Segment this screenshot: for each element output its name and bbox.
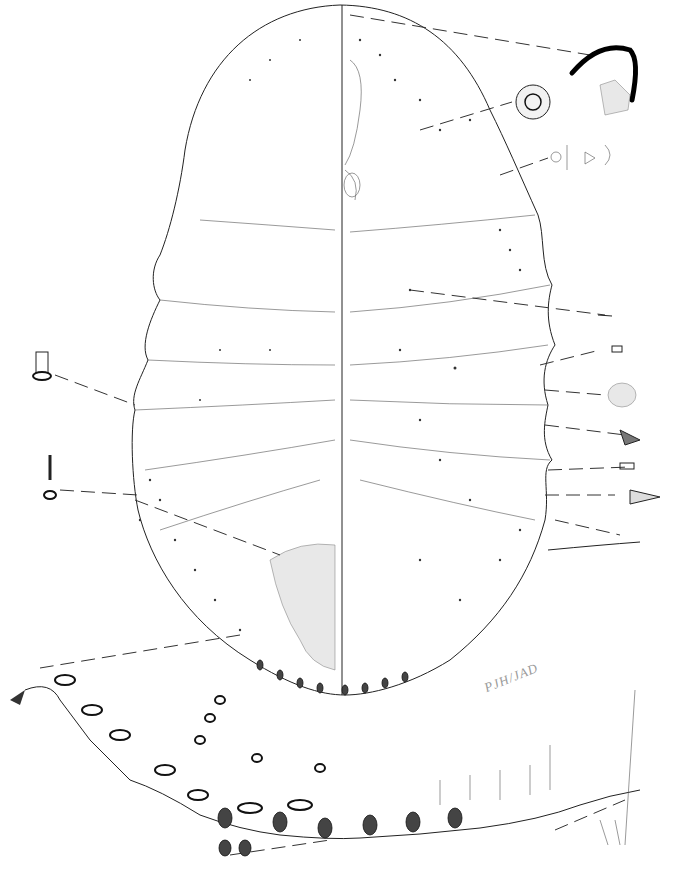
setae-dots: [139, 39, 521, 631]
anal-plate-region: [270, 544, 335, 670]
marginal-band-enlargement: [10, 675, 640, 856]
tubular-ducts: [551, 145, 610, 170]
claw-detail: [572, 48, 636, 115]
multilocular-pore: [516, 85, 550, 119]
insect-illustration: [0, 0, 679, 874]
leader-lines: [40, 15, 630, 855]
right-setae-insets: [548, 315, 660, 550]
left-pore-insets: [33, 352, 56, 499]
